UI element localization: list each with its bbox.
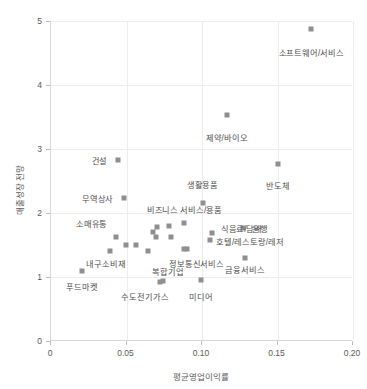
x-tick-label: 0.05 (117, 348, 134, 358)
data-point-label: 미디어 (189, 290, 213, 302)
data-point[interactable] (153, 235, 158, 240)
data-point[interactable] (108, 249, 113, 254)
x-tick-label: 0.20 (344, 348, 361, 358)
data-point[interactable] (209, 231, 214, 236)
data-point-label: 푸드마켓 (66, 280, 98, 292)
data-point[interactable] (182, 221, 187, 226)
data-point-label: 건설 (92, 154, 108, 166)
data-point-label: 생활용품 (187, 178, 219, 190)
y-tick-label: 2 (24, 208, 42, 218)
x-tick-label: 0 (48, 348, 53, 358)
y-tick-mark (46, 277, 50, 278)
x-tick-mark (352, 341, 353, 345)
x-tick-label: 0.15 (268, 348, 285, 358)
data-point[interactable] (146, 248, 151, 253)
x-tick-mark (201, 341, 202, 345)
data-point[interactable] (158, 280, 163, 285)
data-point-label: 반도체 (266, 179, 290, 191)
data-point-label: 비즈니스 서비스/용품 (147, 203, 222, 215)
data-point[interactable] (224, 113, 229, 118)
x-axis-title: 평균영업이익률 (50, 370, 352, 382)
y-tick-mark (46, 21, 50, 22)
x-tick-mark (277, 341, 278, 345)
gridline-vertical (353, 21, 354, 340)
y-tick-label: 0 (24, 336, 42, 346)
y-tick-mark (46, 213, 50, 214)
y-axis-title: 매출성장 전망 (13, 165, 25, 215)
scatter-chart: 00.050.100.150.20012345소프트웨어/서비스제약/바이오건설… (0, 0, 367, 389)
gridline-horizontal (51, 149, 352, 150)
data-point-label: 식음료/담배 (221, 222, 263, 234)
data-point[interactable] (115, 157, 120, 162)
data-point[interactable] (199, 278, 204, 283)
x-tick-mark (50, 341, 51, 345)
data-point[interactable] (276, 161, 281, 166)
data-point[interactable] (123, 243, 128, 248)
y-tick-label: 5 (24, 16, 42, 26)
data-point[interactable] (167, 223, 172, 228)
y-tick-label: 1 (24, 272, 42, 282)
x-tick-mark (126, 341, 127, 345)
data-point[interactable] (79, 268, 84, 273)
data-point[interactable] (134, 243, 139, 248)
y-tick-mark (46, 85, 50, 86)
data-point[interactable] (155, 225, 160, 230)
data-point-label: 제약/바이오 (206, 131, 248, 143)
y-tick-label: 4 (24, 80, 42, 90)
data-point-label: 금융서비스 (225, 263, 265, 275)
data-point[interactable] (309, 26, 314, 31)
y-tick-mark (46, 149, 50, 150)
data-point[interactable] (208, 237, 213, 242)
data-point[interactable] (242, 255, 247, 260)
data-point[interactable] (114, 235, 119, 240)
data-point[interactable] (168, 234, 173, 239)
gridline-horizontal (51, 85, 352, 86)
data-point-label: 내구소비재 (86, 257, 126, 269)
data-point[interactable] (182, 247, 187, 252)
data-point-label: 복합기업 (152, 265, 184, 277)
data-point-label: 무역상사 (82, 192, 114, 204)
gridline-horizontal (51, 21, 352, 22)
x-tick-label: 0.10 (193, 348, 210, 358)
y-tick-mark (46, 341, 50, 342)
data-point-label: 수도전기가스 (121, 290, 168, 302)
data-point-label: 호텔/레스토랑/레저 (216, 235, 284, 247)
y-tick-label: 3 (24, 144, 42, 154)
data-point-label: 소매유통 (76, 217, 108, 229)
data-point-label: 소프트웨어/서비스 (279, 46, 344, 58)
data-point[interactable] (121, 196, 126, 201)
